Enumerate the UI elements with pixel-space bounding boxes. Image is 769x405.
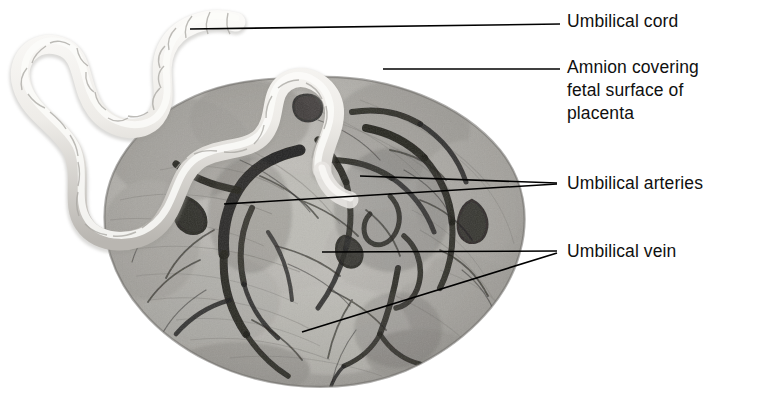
vein-leader-line-upper [322, 251, 557, 252]
label-umbilical-vein: Umbilical vein [567, 240, 676, 263]
label-umbilical-arteries: Umbilical arteries [567, 172, 703, 195]
figure-container: Umbilical cord Amnion covering fetal sur… [0, 0, 769, 405]
label-amnion-covering-fetal-surface-of-placenta: Amnion covering fetal surface of placent… [567, 56, 699, 125]
label-umbilical-cord: Umbilical cord [567, 10, 678, 33]
